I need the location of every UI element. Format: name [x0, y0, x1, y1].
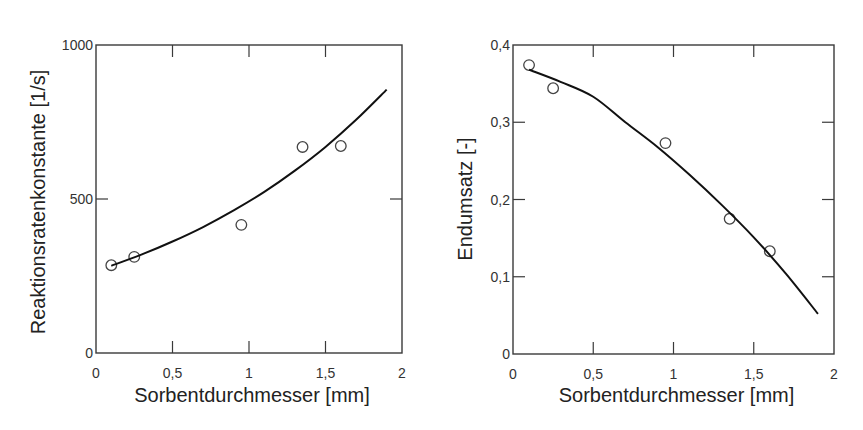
data-point-circle-icon — [660, 138, 671, 149]
data-point-circle-icon — [524, 60, 535, 71]
x-axis-title: Sorbentdurchmesser [mm] — [559, 384, 795, 406]
fit-curve — [529, 70, 818, 314]
x-tick-label: 0 — [509, 366, 517, 382]
x-tick-label: 2 — [398, 365, 406, 381]
x-tick-label: 0 — [92, 365, 100, 381]
figure: 00,511,5205001000Sorbentdurchmesser [mm]… — [0, 0, 863, 430]
y-tick-label: 0 — [85, 345, 93, 361]
data-point-circle-icon — [336, 141, 347, 152]
fit-curve — [111, 90, 386, 266]
plot-frame — [96, 45, 402, 353]
data-point-circle-icon — [297, 142, 308, 153]
x-tick-label: 1 — [245, 365, 253, 381]
y-tick-label: 1000 — [62, 37, 93, 53]
y-tick-label: 0,1 — [491, 269, 511, 285]
y-tick-label: 0,2 — [491, 192, 511, 208]
data-point-circle-icon — [236, 220, 247, 231]
y-tick-label: 0,3 — [491, 114, 511, 130]
plot-frame — [513, 45, 834, 354]
x-tick-label: 0,5 — [163, 365, 183, 381]
y-tick-label: 0 — [502, 346, 510, 362]
y-tick-label: 500 — [70, 191, 94, 207]
y-axis-title: Reaktionsratenkonstante [1/s] — [27, 70, 49, 335]
chart-final-conversion: 00,511,5200,10,20,30,4Sorbentdurchmesser… — [454, 37, 838, 406]
y-axis-title: Endumsatz [-] — [454, 137, 476, 260]
x-tick-label: 0,5 — [584, 366, 604, 382]
x-tick-label: 1,5 — [316, 365, 336, 381]
x-tick-label: 1 — [670, 366, 678, 382]
x-tick-label: 2 — [830, 366, 838, 382]
x-axis-title: Sorbentdurchmesser [mm] — [134, 384, 370, 406]
y-tick-label: 0,4 — [491, 37, 511, 53]
chart-reaction-rate-constant: 00,511,5205001000Sorbentdurchmesser [mm]… — [27, 37, 406, 406]
data-point-circle-icon — [548, 83, 559, 94]
x-tick-label: 1,5 — [744, 366, 764, 382]
